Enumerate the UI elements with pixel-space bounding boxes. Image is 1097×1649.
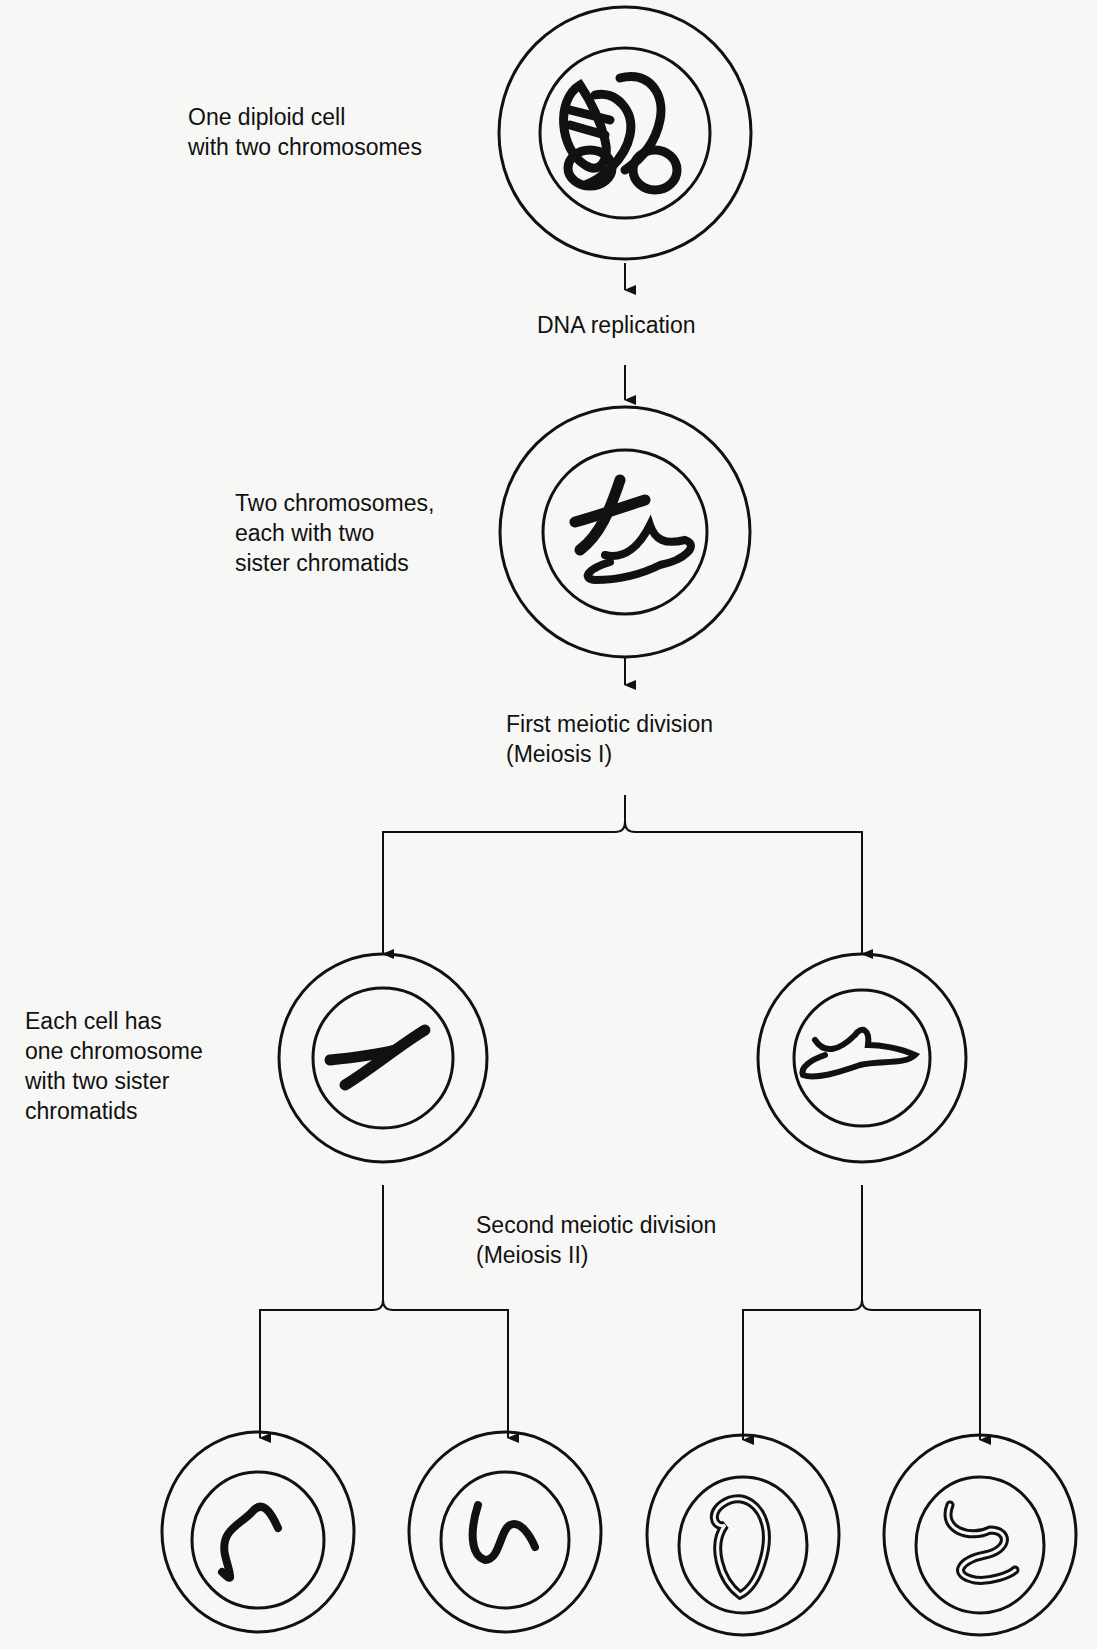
chromosome-x-icon — [575, 480, 645, 550]
replicated-cell — [500, 407, 750, 657]
label-sister-chromatids: Two chromosomes, each with two sister ch… — [235, 488, 434, 578]
meiosis2-bracket-right — [743, 1185, 980, 1435]
meiosis-diagram — [0, 0, 1097, 1649]
label-dna-replication: DNA replication — [537, 310, 696, 340]
label-meiosis-2: Second meiotic division (Meiosis II) — [476, 1210, 716, 1270]
meiosis1-bracket — [383, 795, 862, 940]
gamete-cell-2 — [409, 1432, 601, 1632]
chromatid-icon — [473, 1505, 535, 1560]
daughter-cell-left — [279, 954, 487, 1162]
diploid-cell — [499, 7, 751, 259]
gamete-cell-3 — [647, 1435, 839, 1635]
meiosis2-bracket-left — [260, 1185, 508, 1435]
double-chromatid-icon — [714, 1499, 766, 1595]
daughter-cell-right — [758, 954, 966, 1162]
gamete-cell-1 — [162, 1432, 354, 1632]
label-meiosis-1: First meiotic division (Meiosis I) — [506, 709, 713, 769]
tangled-chromatin-icon — [564, 76, 677, 190]
gamete-cell-4 — [884, 1435, 1076, 1635]
chromosome-bent-icon — [588, 525, 691, 580]
chromatid-icon — [222, 1507, 278, 1578]
label-daughter-cells: Each cell has one chromosome with two si… — [25, 1006, 203, 1126]
chromosome-bent-icon — [802, 1030, 915, 1077]
chromosome-x-icon — [330, 1030, 425, 1085]
label-diploid-cell: One diploid cell with two chromosomes — [188, 102, 422, 162]
